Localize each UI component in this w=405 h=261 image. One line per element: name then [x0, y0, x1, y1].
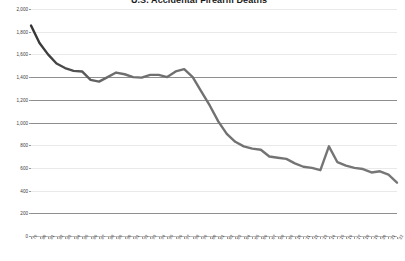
- x-axis-tick-label: '97: [185, 234, 192, 241]
- x-axis-tick-label: '84: [75, 234, 82, 241]
- x-axis-tick-label: '96: [177, 234, 184, 241]
- x-axis-tick-label: '81: [49, 234, 56, 241]
- y-axis-tick-label: 1,600: [0, 52, 28, 57]
- x-axis-tick-label: '92: [143, 234, 150, 241]
- y-axis-tick-label: 400: [0, 188, 28, 193]
- chart-title: U.S. Accidental Firearm Deaths: [0, 0, 398, 5]
- x-axis-tick-label: '20: [381, 234, 388, 241]
- x-axis-tick-label: '91: [134, 234, 141, 241]
- x-axis-tick-label: '95: [168, 234, 175, 241]
- y-axis-tick-label: 800: [0, 143, 28, 148]
- y-axis-tick-label: 1,800: [0, 29, 28, 34]
- x-axis-tick-label: '93: [151, 234, 158, 241]
- x-axis-tick-label: '15: [339, 234, 346, 241]
- x-axis-tick-label: '02: [228, 234, 235, 241]
- x-axis-tick-label: '80: [41, 234, 48, 241]
- x-axis-tick-label: '04: [245, 234, 252, 241]
- x-axis-tick-label: '05: [254, 234, 261, 241]
- x-axis-tick-label: '22: [398, 234, 405, 241]
- x-axis-tick-label: '88: [109, 234, 116, 241]
- y-axis-tick-label: 2,000: [0, 7, 28, 12]
- x-axis-tick-label: '16: [347, 234, 354, 241]
- x-axis-tick-label: '19: [373, 234, 380, 241]
- y-axis-tick-label: 1,000: [0, 120, 28, 125]
- x-axis-tick-label: '09: [288, 234, 295, 241]
- x-axis-labels: '79'80'81'82'83'84'85'86'87'88'89'90'91'…: [31, 237, 397, 261]
- x-axis-tick-label: '11: [305, 235, 312, 242]
- x-axis-tick-label: '82: [58, 234, 65, 241]
- y-axis-tick-label: 1,200: [0, 97, 28, 102]
- x-axis-tick-label: '00: [211, 234, 218, 241]
- y-axis-tick-label: 0: [0, 234, 28, 239]
- plot-area: [31, 9, 397, 236]
- y-axis-labels: 02004006008001,0001,2001,4001,6001,8002,…: [0, 9, 28, 236]
- y-axis-tick-label: 600: [0, 165, 28, 170]
- y-axis-tick-label: 200: [0, 211, 28, 216]
- x-axis-tick-label: '99: [202, 234, 209, 241]
- x-axis-tick-label: '85: [83, 234, 90, 241]
- x-axis-tick-label: '13: [322, 234, 329, 241]
- x-axis-tick-label: '21: [390, 234, 397, 241]
- x-axis-tick-label: '89: [117, 234, 124, 241]
- x-axis-tick-label: '10: [296, 234, 303, 241]
- x-axis-tick-label: '98: [194, 234, 201, 241]
- x-axis-tick-label: '01: [219, 234, 226, 241]
- y-axis-tick-label: 1,400: [0, 75, 28, 80]
- x-axis-tick-label: '87: [100, 234, 107, 241]
- x-axis-tick-label: '94: [160, 234, 167, 241]
- x-axis-tick-label: '83: [66, 234, 73, 241]
- x-axis-tick-label: '08: [279, 234, 286, 241]
- series-line-accidental-firearm-deaths: [31, 9, 397, 236]
- x-axis-tick-label: '18: [364, 234, 371, 241]
- x-axis-tick-label: '90: [126, 234, 133, 241]
- x-axis-tick-label: '79: [32, 234, 39, 241]
- x-axis-tick-label: '06: [262, 234, 269, 241]
- x-axis-tick-label: '86: [92, 234, 99, 241]
- x-axis-tick-label: '03: [236, 234, 243, 241]
- x-axis-tick-label: '12: [313, 234, 320, 241]
- x-axis-tick-label: '14: [330, 234, 337, 241]
- x-axis-tick-label: '17: [356, 234, 363, 241]
- x-axis-tick-label: '07: [271, 234, 278, 241]
